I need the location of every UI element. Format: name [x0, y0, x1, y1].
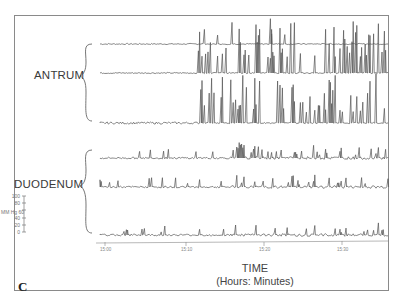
duodenum-brace [80, 150, 92, 233]
antrum-label: ANTRUM [34, 69, 84, 81]
scale-tick-100: 100 [6, 193, 20, 199]
manometry-traces [0, 0, 397, 302]
trace-2 [100, 22, 388, 74]
time-tick-1: 15:00 [100, 247, 111, 252]
duodenum-label: DUODENUM [14, 178, 83, 190]
trace-6 [100, 223, 388, 237]
scale-tick-20: 20 [6, 222, 20, 228]
time-tick-3: 15:20 [259, 247, 270, 252]
time-tick-2: 15:10 [181, 247, 192, 252]
scale-tick-40: 40 [6, 215, 20, 221]
x-axis-title: TIME [200, 262, 310, 274]
trace-3 [100, 74, 388, 125]
antrum-brace [80, 44, 92, 121]
trace-5 [100, 175, 389, 188]
scale-tick-80: 80 [6, 200, 20, 206]
x-axis-subtitle: (Hours: Minutes) [195, 275, 315, 287]
scale-tick-0: 0 [6, 229, 20, 235]
trace-4 [100, 143, 388, 160]
panel-label: C [18, 279, 27, 295]
time-tick-4: 15:30 [337, 247, 348, 252]
